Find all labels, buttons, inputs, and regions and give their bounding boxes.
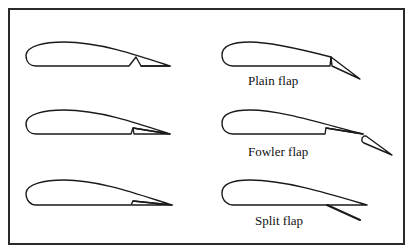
label-split-flap: Split flap <box>255 213 303 229</box>
fowler-flap-retracted <box>26 110 170 134</box>
plain-flap-retracted <box>26 42 170 66</box>
flap-diagram <box>0 0 410 248</box>
label-plain-flap: Plain flap <box>248 73 298 89</box>
label-fowler-flap: Fowler flap <box>248 144 308 160</box>
split-flap-retracted <box>26 180 172 205</box>
